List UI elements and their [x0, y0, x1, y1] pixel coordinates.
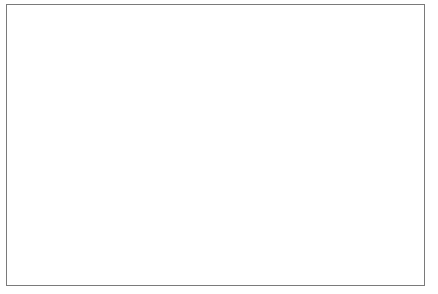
- chart-outer-frame: [6, 4, 425, 286]
- chart-container: 01002003004005006007008009001,000 199219…: [0, 0, 438, 294]
